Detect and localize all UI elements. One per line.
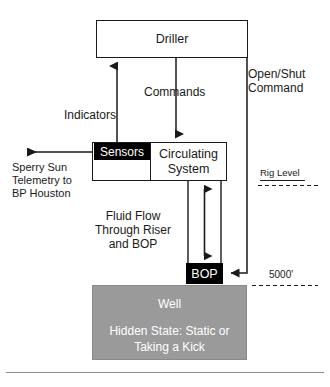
edge-open-shut-command <box>231 58 247 273</box>
edge-label-fluid-flow: Fluid Flow Through Riser and BOP <box>95 209 171 251</box>
annotation-rig-level: Rig Level <box>260 167 300 178</box>
node-well-title: Well <box>158 297 181 311</box>
node-driller-label: Driller <box>156 32 189 46</box>
node-circulating-system-label: Circulating System <box>150 142 227 181</box>
edge-label-commands: Commands <box>144 85 205 99</box>
node-bop-label: BOP <box>191 267 217 281</box>
node-driller[interactable]: Driller <box>96 20 248 58</box>
annotation-depth: 5000' <box>269 269 293 281</box>
node-bop[interactable]: BOP <box>186 263 223 284</box>
node-well-hidden-state: Hidden State: Static or Taking a Kick <box>93 324 246 355</box>
process-diagram: Driller Circulating System Sensors BOP W… <box>0 0 330 387</box>
node-sensors-label: Sensors <box>100 145 144 159</box>
edge-label-indicators: Indicators <box>64 108 116 122</box>
node-sensors[interactable]: Sensors <box>94 143 150 160</box>
edge-label-telemetry: Sperry Sun Telemetry to BP Houston <box>12 161 72 200</box>
edge-label-open-shut-command: Open/Shut Command <box>248 67 305 95</box>
node-well[interactable]: Well Hidden State: Static or Taking a Ki… <box>92 285 247 360</box>
